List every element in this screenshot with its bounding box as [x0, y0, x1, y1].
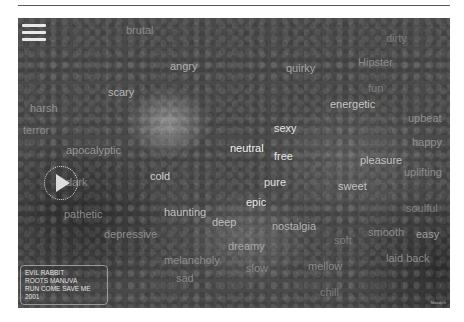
mood-word-free[interactable]: free	[274, 150, 293, 162]
track-album: RUN COME SAVE ME	[25, 285, 103, 293]
mood-word-pathetic[interactable]: pathetic	[64, 208, 103, 220]
mood-word-sweet[interactable]: sweet	[338, 180, 367, 192]
mood-word-soft[interactable]: soft	[334, 234, 352, 246]
mood-word-deep[interactable]: deep	[212, 216, 236, 228]
mood-word-pleasure[interactable]: pleasure	[360, 154, 402, 166]
mood-word-easy[interactable]: easy	[416, 228, 439, 240]
mood-word-slow[interactable]: slow	[246, 262, 268, 274]
track-title: EVIL RABBIT	[25, 269, 103, 277]
mood-word-terror[interactable]: terror	[23, 124, 49, 136]
mood-word-sexy[interactable]: sexy	[274, 122, 297, 134]
mood-word-mellow[interactable]: mellow	[308, 260, 342, 272]
mood-word-scary[interactable]: scary	[108, 86, 134, 98]
mood-word-haunting[interactable]: haunting	[164, 206, 206, 218]
mood-word-harsh[interactable]: harsh	[30, 102, 58, 114]
mood-word-quirky[interactable]: quirky	[286, 62, 315, 74]
track-year: 2001	[25, 293, 103, 301]
mood-word-depressive[interactable]: depressive	[104, 228, 157, 240]
mood-word-soulful[interactable]: soulful	[406, 202, 438, 214]
mood-map-canvas[interactable]: brutalangryquirkydirtyHipsterfunenergeti…	[18, 18, 450, 308]
mood-word-apocalyptic[interactable]: apocalyptic	[66, 144, 121, 156]
hamburger-menu-icon[interactable]	[22, 24, 46, 42]
credit-label: Moody.fr	[431, 300, 446, 305]
mood-word-neutral[interactable]: neutral	[230, 142, 264, 154]
top-divider	[18, 5, 450, 6]
mood-word-smooth[interactable]: smooth	[368, 226, 404, 238]
mood-word-dirty[interactable]: dirty	[386, 32, 407, 44]
mood-word-energetic[interactable]: energetic	[330, 98, 375, 110]
mood-word-melancholy[interactable]: melancholy	[164, 254, 220, 266]
mood-word-angry[interactable]: angry	[170, 60, 198, 72]
play-button[interactable]	[44, 166, 78, 200]
mood-word-uplifting[interactable]: uplifting	[404, 166, 442, 178]
mood-word-fun[interactable]: fun	[368, 82, 383, 94]
mood-word-brutal[interactable]: brutal	[126, 24, 154, 36]
mood-word-chill[interactable]: chill	[320, 286, 339, 298]
now-playing-info: EVIL RABBIT ROOTS MANUVA RUN COME SAVE M…	[20, 265, 108, 305]
mood-word-upbeat[interactable]: upbeat	[408, 112, 442, 124]
mood-word-pure[interactable]: pure	[264, 176, 286, 188]
mood-word-hipster[interactable]: Hipster	[358, 56, 393, 68]
mood-word-cold[interactable]: cold	[150, 170, 170, 182]
mood-word-laid-back[interactable]: laid back	[386, 252, 429, 264]
mood-word-sad[interactable]: sad	[176, 272, 194, 284]
mood-word-nostalgia[interactable]: nostalgia	[272, 220, 316, 232]
mood-word-epic[interactable]: epic	[246, 196, 266, 208]
track-artist: ROOTS MANUVA	[25, 277, 103, 285]
mood-word-dreamy[interactable]: dreamy	[228, 240, 265, 252]
mood-word-happy[interactable]: happy	[412, 136, 442, 148]
play-icon	[56, 174, 70, 192]
